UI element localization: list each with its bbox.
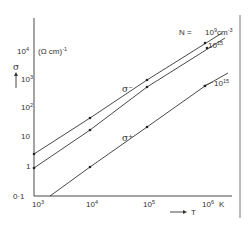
data-points xyxy=(33,42,209,170)
x-unit: K xyxy=(219,200,225,209)
svg-text:(Ω cm)-1: (Ω cm)-1 xyxy=(38,46,67,56)
svg-text:104: 104 xyxy=(86,199,98,209)
x-tick-labels: 103 104 105 106 K xyxy=(32,199,225,209)
svg-text:103: 103 xyxy=(32,199,44,209)
svg-text:σ: σ xyxy=(13,62,19,72)
x-axis-label: T xyxy=(170,208,196,217)
svg-text:1015: 1015 xyxy=(214,78,229,88)
svg-text:105: 105 xyxy=(143,199,155,209)
svg-text:1015: 1015 xyxy=(208,40,223,50)
series-sigma-minus-n15 xyxy=(34,38,225,168)
sigma-plus-label: σ+ xyxy=(122,133,133,143)
svg-text:109cm-3: 109cm-3 xyxy=(205,27,233,37)
svg-text:10: 10 xyxy=(21,132,30,141)
svg-text:0·1: 0·1 xyxy=(13,192,25,201)
svg-text:T: T xyxy=(191,208,196,217)
n-label: N = xyxy=(179,28,192,37)
svg-text:104: 104 xyxy=(17,46,29,56)
chart-svg: 104 103 102 10 1 0·1 103 104 105 106 K σ… xyxy=(0,0,249,225)
series-sigma-plus-n15 xyxy=(50,73,228,196)
svg-text:106: 106 xyxy=(202,199,214,209)
sigma-minus-label: σ− xyxy=(122,84,133,94)
svg-text:103: 103 xyxy=(21,74,33,84)
svg-text:102: 102 xyxy=(21,102,33,112)
annotations: N = 109cm-3 1015 1015 σ− σ+ xyxy=(122,27,233,143)
svg-text:1: 1 xyxy=(26,162,31,171)
